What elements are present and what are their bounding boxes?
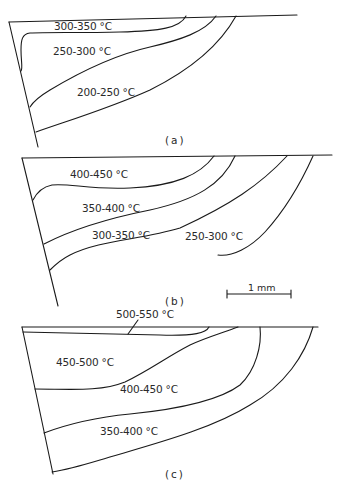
panel-c-zone-label: 400-450 °C: [120, 383, 178, 395]
panel-c-zone-label: 450-500 °C: [56, 356, 114, 368]
temperature-contour-figure: 300-350 °C 250-300 °C 200-250 °C (a) 400…: [0, 0, 337, 491]
panel-a-boundary-line: [9, 22, 38, 147]
panel-b-zone-label: 250-300 °C: [185, 230, 243, 242]
panel-a-caption: (a): [165, 134, 186, 146]
panel-c-caption: (c): [165, 468, 185, 480]
panel-c-boundary-line: [22, 327, 53, 474]
panel-b-zone-label: 350-400 °C: [82, 202, 140, 214]
panel-a: 300-350 °C 250-300 °C 200-250 °C (a): [9, 15, 297, 147]
panel-b-zone-label: 400-450 °C: [70, 168, 128, 180]
panel-a-surface-line: [9, 15, 297, 22]
scale-bar: 1 mm: [227, 282, 291, 298]
panel-a-zone-label: 250-300 °C: [53, 45, 111, 57]
panel-b-boundary-line: [22, 158, 58, 306]
panel-b: 400-450 °C 350-400 °C 300-350 °C 250-300…: [22, 155, 332, 307]
scale-bar-label: 1 mm: [248, 282, 276, 293]
panel-c-zone-label: 500-550 °C: [116, 308, 174, 320]
panel-b-caption: (b): [165, 295, 186, 307]
panel-c-zone-label: 350-400 °C: [100, 425, 158, 437]
panel-b-zone-label: 300-350 °C: [92, 229, 150, 241]
panel-a-zone-label: 300-350 °C: [54, 20, 112, 32]
panel-a-isotherm-200: [36, 16, 236, 132]
panel-c-isotherm-500: [23, 327, 209, 335]
panel-a-zone-label: 200-250 °C: [77, 86, 135, 98]
panel-c: 500-550 °C 450-500 °C 400-450 °C 350-400…: [22, 308, 318, 480]
